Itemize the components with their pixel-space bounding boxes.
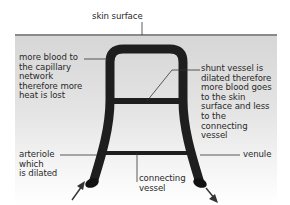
shunt-leader — [147, 70, 172, 101]
capillary-loop — [93, 49, 200, 183]
venule-label: venule — [243, 150, 271, 160]
inflow-arrow-icon — [72, 181, 85, 200]
capillary-network-label: more blood to the capillary network ther… — [19, 53, 82, 101]
outflow-arrow-icon — [206, 188, 218, 203]
connecting-vessel-label: connecting vessel — [139, 174, 186, 193]
skin-surface-label: skin surface — [92, 12, 143, 22]
skin-blood-flow-diagram: skin surface more blood to the capillary… — [0, 0, 290, 205]
arteriole-label: arteriole which is dilated — [19, 150, 57, 179]
shunt-vessel-label: shunt vessel is dilated therefore more b… — [201, 64, 272, 141]
